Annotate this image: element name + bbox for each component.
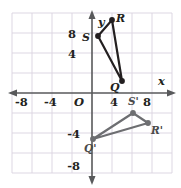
vertex-R-point — [109, 17, 115, 23]
y-tick-label-neg8: -8 — [67, 159, 80, 173]
y-tick-label-8: 8 — [68, 27, 76, 41]
coordinate-plane-figure: y x -8 -4 4 8 O 8 4 -4 -8 R S Q S' R' Q' — [0, 0, 181, 188]
x-axis-label: x — [157, 74, 165, 88]
x-tick-label-neg8: -8 — [15, 95, 28, 109]
vertex-label-R: R — [115, 12, 125, 25]
y-tick-label-4: 4 — [68, 47, 76, 61]
y-tick-label-neg4: -4 — [67, 127, 80, 141]
vertex-Q-point — [119, 78, 125, 84]
vertex-label-R-prime: R' — [150, 124, 163, 136]
vertex-label-S-prime: S' — [128, 95, 139, 107]
origin-label: O — [74, 95, 84, 109]
x-tick-label-4: 4 — [110, 95, 118, 109]
vertex-label-Q-prime: Q' — [84, 142, 96, 154]
figure-background — [0, 0, 181, 188]
x-tick-label-neg4: -4 — [44, 95, 57, 109]
vertex-label-S: S — [82, 31, 90, 44]
vertex-S-prime-point — [130, 110, 136, 116]
vertex-S-point — [95, 33, 101, 39]
x-tick-label-8: 8 — [143, 95, 151, 109]
vertex-label-Q: Q — [110, 81, 120, 94]
